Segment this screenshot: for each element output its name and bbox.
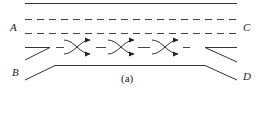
weave-marker-3 bbox=[152, 40, 178, 54]
label-d: D bbox=[242, 70, 251, 82]
figure-caption: (a) bbox=[121, 72, 134, 85]
weave-marker-2 bbox=[108, 40, 134, 54]
entry-ramp-inner-edge bbox=[25, 48, 50, 61]
weaving-diagram: A B C D (a) bbox=[0, 0, 263, 115]
label-a: A bbox=[9, 21, 17, 33]
label-c: C bbox=[243, 21, 251, 33]
weave-marker-1 bbox=[64, 40, 90, 54]
label-b: B bbox=[12, 66, 19, 78]
exit-ramp-inner-edge bbox=[205, 48, 237, 63]
